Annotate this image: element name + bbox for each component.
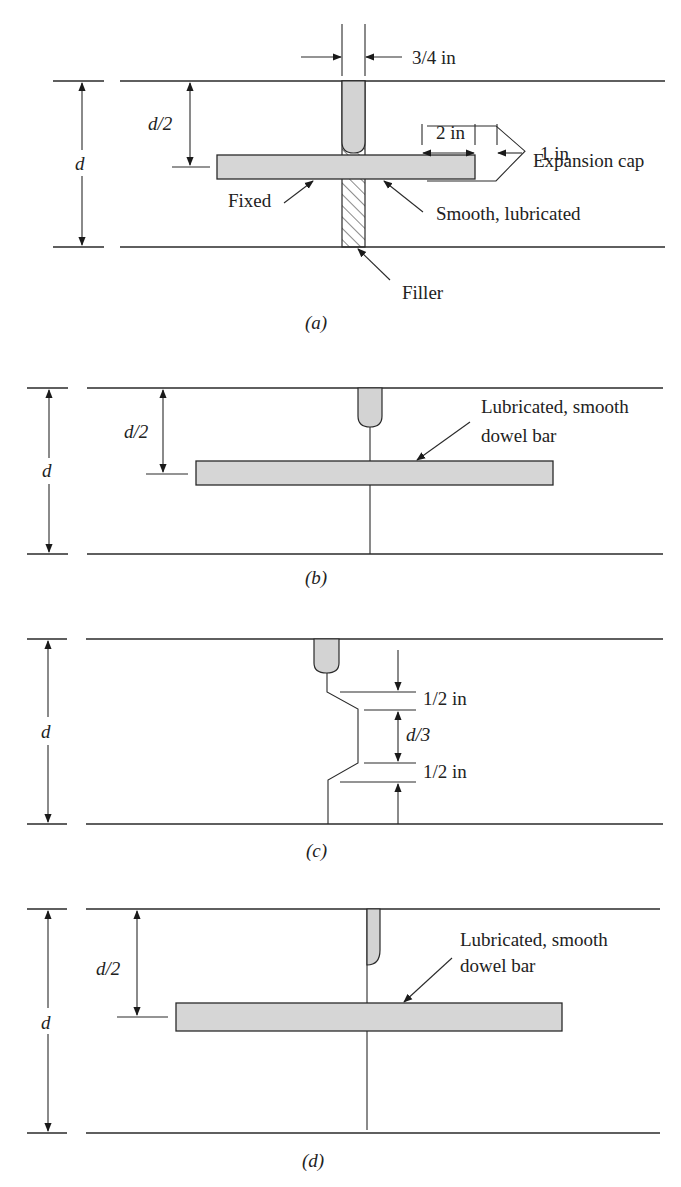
- panel-c: d 1/2 in d/3 1/2 in (c): [27, 639, 663, 862]
- sealant: [358, 388, 382, 427]
- half-depth-label: d/2: [148, 113, 173, 134]
- panel-d: d d/2 Lubricated, smooth dowel bar (d): [27, 909, 660, 1172]
- keyed-joint-line: [327, 673, 358, 824]
- dowel-arrow: [404, 958, 452, 1002]
- dowel-label-line1: Lubricated, smooth: [481, 396, 629, 417]
- filler-arrow: [358, 249, 390, 280]
- sealant: [367, 909, 380, 965]
- depth-label: d: [42, 460, 52, 481]
- dowel-bar: [176, 1003, 562, 1031]
- depth-label: d: [75, 153, 85, 174]
- dowel-bar: [196, 461, 553, 485]
- dowel-label-line2: dowel bar: [460, 955, 536, 976]
- caption-c: (c): [306, 840, 327, 862]
- caption-b: (b): [305, 567, 327, 589]
- key-depth-label: d/3: [406, 724, 430, 745]
- joint-details-figure: d d/2 3/4 in 2 in 1 in Expansion cap Fix…: [0, 0, 681, 1187]
- fixed-arrow: [284, 181, 313, 203]
- top-offset-label: 1/2 in: [423, 688, 467, 709]
- smooth-arrow: [384, 181, 423, 212]
- sealant: [314, 639, 339, 673]
- half-depth-label: d/2: [124, 421, 149, 442]
- depth-label: d: [41, 1012, 51, 1033]
- panel-b: d d/2 Lubricated, smooth dowel bar (b): [27, 388, 663, 589]
- cap-length-label: 2 in: [436, 122, 466, 143]
- dowel-bar: [217, 155, 475, 179]
- dowel-label-line2: dowel bar: [481, 425, 557, 446]
- expansion-cap-label: Expansion cap: [533, 150, 644, 171]
- fixed-label: Fixed: [228, 190, 272, 211]
- depth-label: d: [41, 721, 51, 742]
- filler-label: Filler: [402, 282, 444, 303]
- half-depth-label: d/2: [96, 958, 121, 979]
- caption-d: (d): [302, 1150, 324, 1172]
- sealant: [342, 81, 365, 153]
- smooth-label: Smooth, lubricated: [436, 203, 581, 224]
- dowel-label-line1: Lubricated, smooth: [460, 929, 608, 950]
- caption-a: (a): [305, 312, 327, 334]
- panel-a: d d/2 3/4 in 2 in 1 in Expansion cap Fix…: [53, 24, 665, 334]
- dowel-arrow: [417, 422, 470, 460]
- bottom-offset-label: 1/2 in: [423, 761, 467, 782]
- joint-width-label: 3/4 in: [412, 47, 456, 68]
